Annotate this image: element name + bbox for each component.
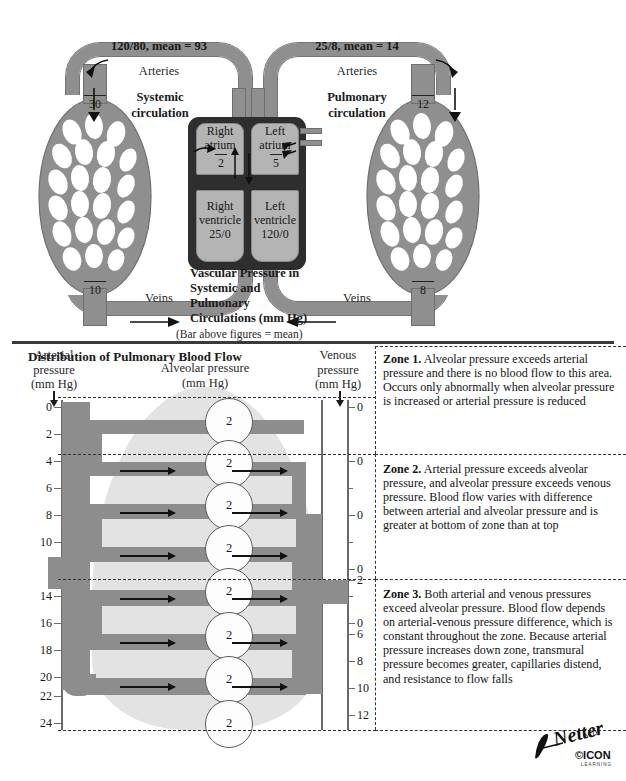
- circulation-diagram: 30 10 12 8 120/80, mean = 93 Arteries Sy…: [0, 0, 626, 341]
- alveolus-4: 2: [205, 525, 253, 573]
- vascular-pressure-caption-l2: Systemic and: [190, 281, 370, 296]
- arterial-trunk-bulge: [48, 557, 90, 589]
- vascular-pressure-caption-l1: Vascular Pressure in: [190, 266, 370, 281]
- zone2-zone3-boundary: [58, 579, 376, 580]
- vascular-pressure-caption-l3: Pulmonary: [190, 296, 370, 311]
- alveolus-2: 2: [205, 440, 253, 488]
- arterial-trunk: [62, 402, 90, 690]
- alveolus-7: 2: [205, 656, 253, 704]
- alveolus-5: 2: [205, 568, 253, 616]
- capillary-segment-1: [88, 420, 304, 434]
- zone-2-label: Zone 2.: [383, 462, 421, 476]
- svg-text:©ICON: ©ICON: [575, 749, 611, 761]
- mean-bar-note: (Bar above figures = mean): [176, 328, 396, 340]
- arterial-pressure-header: Arterial pressure (mm Hg): [12, 348, 96, 392]
- svg-text:LEARNING: LEARNING: [581, 762, 612, 767]
- heart-valves-and-arrows: [188, 117, 306, 270]
- zone-panel-left-rule-1: [375, 346, 376, 454]
- zone-panel-left-rule-2: [375, 454, 376, 579]
- zone-2-text: Zone 2. Arterial pressure exceeds alveol…: [383, 462, 619, 532]
- venous-axis: [347, 400, 349, 730]
- pulmonary-vein-inlet-2: [300, 140, 322, 146]
- zone-3-text: Zone 3. Both arterial and venous pressur…: [383, 587, 619, 686]
- alveolus-1: 2: [205, 398, 253, 446]
- zone-1-text: Zone 1. Alveolar pressure exceeds arteri…: [383, 352, 619, 408]
- zone-boundary-bottom: [58, 730, 376, 731]
- alveolus-6: 2: [205, 612, 253, 660]
- capillary-connector-right-1: [292, 462, 306, 519]
- pulmonary-vein-inlet: [300, 128, 322, 134]
- alveolus-3: 2: [205, 482, 253, 530]
- netter-signature: Netter M.D. ©ICON LEARNING: [527, 714, 619, 770]
- zone-3-label: Zone 3.: [383, 587, 421, 601]
- zone-3-body: Both arterial and venous pressures excee…: [383, 587, 612, 686]
- alveolar-pressure-header: Alveolar pressure (mm Hg): [130, 361, 280, 390]
- capillary-connector-right-3: [292, 634, 306, 695]
- zone-boundary-top: [58, 397, 376, 398]
- zone1-zone2-boundary: [58, 454, 376, 455]
- capillary-connector-left-2: [88, 504, 102, 562]
- zone-1-label: Zone 1.: [383, 352, 421, 366]
- zone1-bottom-rule: [375, 454, 626, 455]
- zone-panel-left-rule-3: [375, 579, 376, 730]
- alveolus-8: 2: [205, 700, 253, 748]
- capillary-connector-left-1: [88, 420, 102, 476]
- venous-pressure-header: Venous pressure (mm Hg): [298, 348, 378, 392]
- capillary-connector-right-2: [292, 547, 306, 606]
- capillary-segment-2: [88, 462, 306, 476]
- zone1-top-rule: [375, 346, 626, 347]
- capillary-connector-left-3: [88, 590, 102, 650]
- vascular-pressure-caption-l4: Circulations (mm Hg): [190, 311, 400, 326]
- zone2-bottom-rule: [375, 579, 626, 580]
